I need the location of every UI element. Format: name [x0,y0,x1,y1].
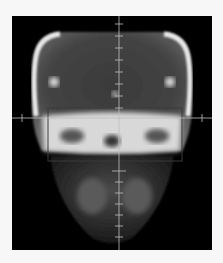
radiograph-panel [12,16,212,250]
mandible [50,156,174,243]
skull-xray [12,16,212,250]
